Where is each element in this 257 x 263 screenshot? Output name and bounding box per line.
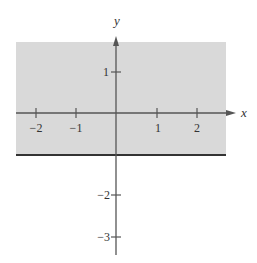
y-axis-label: y: [112, 13, 120, 28]
x-tick-label: −1: [70, 121, 83, 135]
x-tick-label: 2: [194, 121, 200, 135]
x-axis-arrow-icon: [226, 110, 236, 116]
x-axis-label: x: [240, 105, 247, 120]
shaded-region: [16, 42, 226, 155]
y-tick-label: 1: [103, 65, 109, 79]
y-axis-arrow-icon: [113, 36, 119, 46]
x-tick-label: 1: [155, 121, 161, 135]
y-tick-label: −3: [97, 230, 110, 244]
inequality-graph: −2 −1 1 2 1 −2 −3 x y: [0, 0, 257, 263]
x-tick-label: −2: [30, 121, 43, 135]
y-tick-label: −2: [97, 188, 110, 202]
